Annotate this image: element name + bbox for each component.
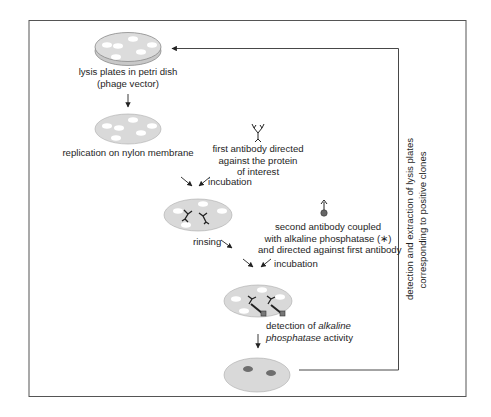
plaque [128, 36, 138, 42]
plaque [114, 125, 124, 131]
plaque [173, 208, 183, 214]
plaque [181, 222, 191, 228]
first-antibody-label: first antibody directed against the prot… [208, 143, 308, 178]
detection-suffix: activity [321, 332, 353, 343]
plaque [136, 49, 146, 55]
membrane-label: replication on nylon membrane [58, 147, 198, 159]
arrow-diagonal-icon [181, 177, 192, 186]
plaque [111, 135, 121, 141]
plaque [147, 42, 157, 48]
detection-label: detection of alkaline phosphatase activi… [266, 320, 353, 343]
feedback-label: detection and extraction of lysis plates… [404, 140, 429, 300]
detection-enzyme-word1: alkaline [318, 320, 351, 331]
plaque [147, 123, 157, 129]
feedback-label-line1: detection and extraction of lysis plates [404, 140, 417, 300]
plaque [102, 123, 112, 129]
plaque [113, 43, 123, 49]
detection-enzyme-word2: phosphatase [266, 332, 321, 343]
nylon-membrane [95, 114, 161, 144]
first-antibody-icon [252, 124, 264, 142]
detection-prefix: detection of [266, 320, 318, 331]
plaque [111, 54, 121, 60]
plaque [217, 208, 227, 214]
first-antibody-line2: against the protein [208, 155, 308, 167]
first-antibody-line1: first antibody directed [208, 143, 308, 155]
alkaline-phosphatase-icon [321, 210, 327, 216]
arrow-diagonal-icon [243, 259, 253, 267]
incubation-1-text: incubation [208, 176, 252, 187]
plaque [102, 42, 112, 48]
rinsing-label: rinsing [193, 236, 221, 248]
petri-label-line1: lysis plates in petri dish [68, 66, 188, 78]
enzyme-icon [261, 311, 266, 316]
plaque [275, 294, 285, 300]
plaque [257, 287, 267, 293]
positive-clone-spot [266, 370, 276, 376]
developed-membrane [224, 358, 290, 392]
membrane-with-antibody-complex [224, 285, 292, 317]
second-antibody-line3: and directed against first antibody [258, 244, 398, 256]
second-antibody-line1: second antibody coupled [258, 221, 398, 233]
incubation-1-label: incubation [208, 176, 252, 188]
second-antibody-label: second antibody coupled with alkaline ph… [258, 221, 398, 256]
petri-dish [95, 33, 161, 66]
plaque [231, 296, 241, 302]
incubation-2-label: incubation [274, 258, 318, 270]
plaque [128, 117, 138, 123]
positive-clone-spot [243, 366, 253, 372]
membrane-label-text: replication on nylon membrane [58, 147, 198, 159]
feedback-label-line2: corresponding to positive clones [417, 140, 430, 300]
plaque [239, 308, 249, 314]
rinsing-text: rinsing [193, 236, 221, 247]
plaque [136, 130, 146, 136]
second-antibody-line2: with alkaline phosphatase (∗) [258, 233, 398, 245]
arrow-diagonal-icon [221, 240, 232, 248]
incubation-2-text: incubation [274, 258, 318, 269]
plaque [198, 201, 208, 207]
membrane-with-first-antibody [164, 199, 232, 231]
second-antibody-icon [321, 200, 327, 216]
petri-label-line2: (phage vector) [68, 78, 188, 90]
petri-dish-label: lysis plates in petri dish (phage vector… [68, 66, 188, 89]
enzyme-icon [280, 311, 285, 316]
arrow-diagonal-icon [261, 259, 271, 267]
